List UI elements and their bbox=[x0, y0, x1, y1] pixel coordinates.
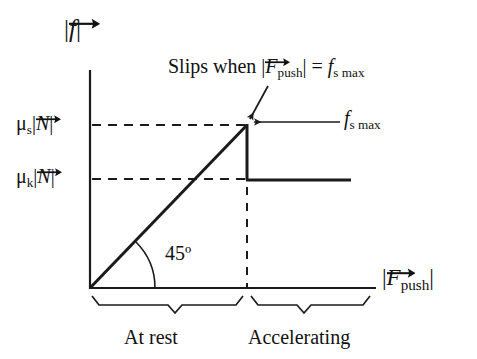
y-axis-label-bar-close: | bbox=[76, 16, 81, 41]
region-label-at-rest: At rest bbox=[124, 327, 178, 347]
slips-lead-text: Slips when bbox=[168, 55, 261, 77]
friction-graph-figure: |f | μs|N | μk|N | |F push| Slips wh bbox=[0, 0, 477, 359]
slips-force-subscript: push bbox=[278, 65, 303, 80]
angle-arc bbox=[136, 242, 155, 288]
mu-s-bar-close: | bbox=[49, 113, 53, 133]
y-axis-label-symbol: f bbox=[69, 15, 76, 42]
x-axis-label-symbol: F bbox=[387, 265, 401, 290]
degree-icon: º bbox=[185, 242, 191, 264]
mu-s-normal-symbol: N bbox=[36, 112, 49, 134]
angle-value: 45 bbox=[165, 242, 185, 264]
slips-force-symbol: F bbox=[265, 55, 277, 77]
mu-s-greek: μ bbox=[16, 112, 27, 134]
mu-k-bar-close: | bbox=[51, 166, 55, 186]
mu-k-subscript: k bbox=[27, 175, 34, 190]
y-axis-vector-symbol: f bbox=[69, 16, 76, 41]
slips-force-vector-symbol: F bbox=[265, 56, 277, 76]
fsmax-label: fs max bbox=[344, 108, 381, 128]
mu-k-greek: μ bbox=[16, 165, 27, 187]
slips-f-subscript: s max bbox=[333, 65, 364, 80]
normal-force-vector-symbol-static: N bbox=[36, 113, 49, 133]
tick-label-static-friction: μs|N | bbox=[16, 113, 53, 133]
slips-equals: = bbox=[307, 55, 328, 77]
slips-leader-arrow bbox=[250, 86, 268, 119]
x-axis-label-bar-close: | bbox=[429, 266, 434, 289]
tick-label-kinetic-friction: μk|N | bbox=[16, 166, 55, 186]
accelerating-brace bbox=[251, 296, 370, 313]
fsmax-f-symbol: f bbox=[344, 107, 350, 129]
x-axis-label: |F push| bbox=[382, 266, 434, 289]
normal-force-vector-symbol-kinetic: N bbox=[37, 166, 50, 186]
push-force-vector-symbol: F bbox=[387, 266, 401, 289]
angle-label: 45º bbox=[165, 243, 191, 263]
mu-k-normal-symbol: N bbox=[37, 165, 50, 187]
slips-annotation: Slips when |F push| = fs max bbox=[168, 56, 365, 76]
graph-canvas bbox=[0, 0, 477, 359]
mu-s-subscript: s bbox=[27, 122, 32, 137]
fsmax-subscript: s max bbox=[350, 117, 381, 132]
x-axis-label-subscript: push bbox=[401, 276, 430, 293]
y-axis-label: |f | bbox=[64, 16, 81, 41]
region-label-accelerating: Accelerating bbox=[248, 327, 350, 347]
at-rest-brace bbox=[92, 296, 243, 313]
